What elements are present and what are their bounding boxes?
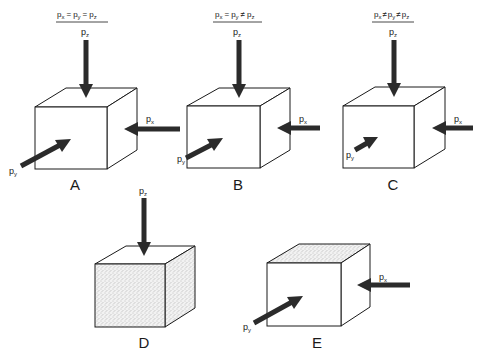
cube-front-face <box>35 107 107 169</box>
cube-front-face <box>267 263 341 326</box>
px-label-c: px <box>454 114 462 125</box>
condition-formula-a: px=py=pz <box>56 10 108 22</box>
panel-label-c: C <box>388 176 399 193</box>
px-label-e: px <box>379 272 387 283</box>
pz-label-b: pz <box>233 27 241 38</box>
py-label-e: py <box>243 322 251 333</box>
px-label-b: px <box>299 114 307 125</box>
svg-text:px≠py≠pz: px≠py≠pz <box>374 10 409 20</box>
pz-label-d: pz <box>139 186 147 197</box>
panel-label-d: D <box>139 334 150 351</box>
cube-front-face <box>187 106 260 168</box>
stress-cube-diagram: px=py=pz pz px py A <box>0 0 483 358</box>
svg-text:px=py=pz: px=py=pz <box>57 10 97 20</box>
condition-formula-b: px=py≠pz <box>213 10 262 22</box>
py-label-b: py <box>177 154 185 165</box>
panel-b: px=py≠pz pz px py B <box>177 10 320 193</box>
pz-label-a: pz <box>81 27 89 38</box>
px-label-a: px <box>146 114 154 125</box>
cube-c <box>343 87 445 168</box>
panel-label-e: E <box>312 334 322 351</box>
condition-formula-c: px≠py≠pz <box>372 10 414 22</box>
panel-e: px py E <box>243 244 410 351</box>
panel-a: px=py=pz pz px py A <box>9 10 180 193</box>
cube-b <box>187 88 290 168</box>
panel-label-b: B <box>233 176 243 193</box>
panel-label-a: A <box>70 176 80 193</box>
py-label-a: py <box>9 166 17 177</box>
pz-label-c: pz <box>389 27 397 38</box>
cube-e <box>267 244 370 326</box>
panel-d: pz D <box>95 186 195 351</box>
panel-c: px≠py≠pz pz px py C <box>343 10 473 193</box>
cube-d <box>95 246 195 327</box>
svg-text:px=py≠pz: px=py≠pz <box>215 10 254 20</box>
cube-front-face-stippled <box>95 264 165 327</box>
cube-a <box>35 88 137 169</box>
